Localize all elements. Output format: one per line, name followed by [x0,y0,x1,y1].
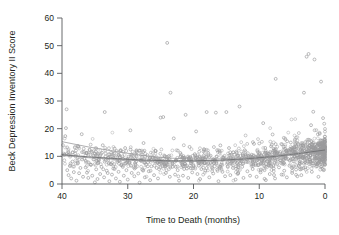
y-tick-label: 0 [49,179,54,189]
y-tick-label: 40 [45,68,55,78]
x-tick-label: 20 [189,191,199,201]
y-tick-label: 50 [45,41,55,51]
y-tick-label: 20 [45,124,55,134]
figure-background [0,0,339,235]
x-tick-label: 0 [323,191,328,201]
x-tick-label: 30 [123,191,133,201]
y-axis-title: Beck Depression Inventory II Score [7,30,17,171]
x-axis-title: Time to Death (months) [146,215,240,225]
x-tick-label: 40 [57,191,67,201]
x-tick-label: 10 [255,191,265,201]
y-tick-label: 60 [45,13,55,23]
y-tick-label: 30 [45,96,55,106]
y-tick-label: 10 [45,151,55,161]
scatter-plot-figure: 0102030405060 403020100 Time to Death (m… [0,0,339,235]
